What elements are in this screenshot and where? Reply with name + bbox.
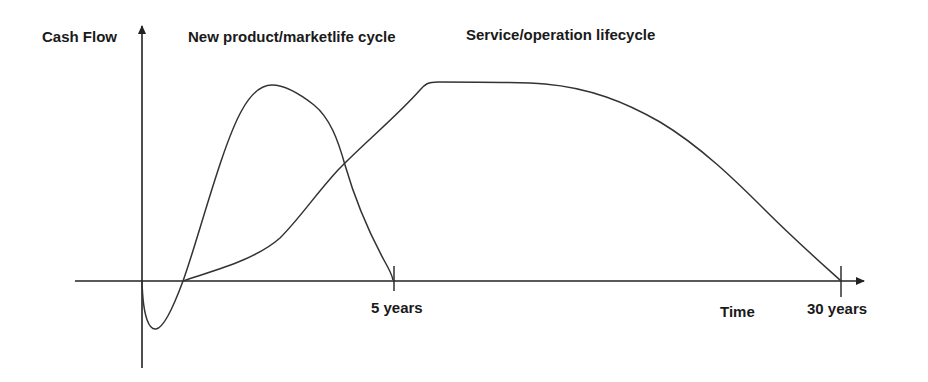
service-curve-label: Service/operation lifecycle	[466, 26, 655, 43]
tick-30-years-label: 30 years	[807, 300, 867, 317]
product-curve-label: New product/marketlife cycle	[188, 28, 396, 45]
service-lifecycle-curve	[183, 82, 841, 281]
product-lifecycle-curve	[142, 85, 393, 329]
lifecycle-diagram: Cash Flow New product/marketlife cycle S…	[0, 0, 928, 382]
y-axis-label: Cash Flow	[42, 28, 117, 45]
x-axis-label: Time	[720, 303, 755, 320]
tick-5-years-label: 5 years	[371, 299, 423, 316]
